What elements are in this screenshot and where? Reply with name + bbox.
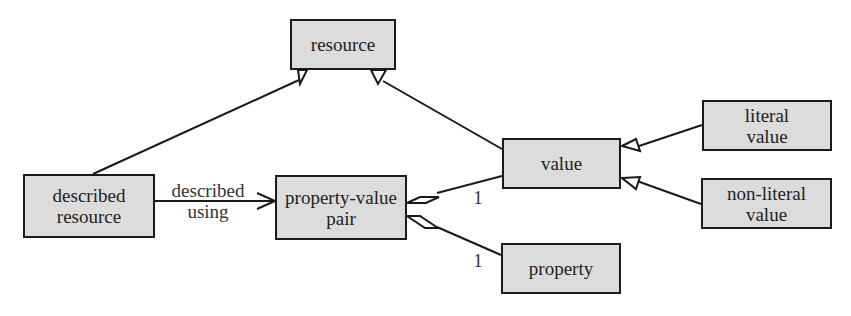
class-box-resource: resource (290, 19, 396, 70)
class-box-non-literal-value: non-literal value (701, 178, 832, 229)
class-label: property-value (285, 187, 397, 208)
class-label: resource (57, 206, 121, 227)
class-box-value: value (502, 138, 621, 189)
class-box-described-resource: described resource (23, 174, 155, 238)
class-label: value (541, 153, 582, 174)
class-label: value (746, 126, 787, 147)
generalization-line-literal (636, 125, 702, 147)
multiplicity-label-property: 1 (472, 250, 484, 271)
class-label: value (746, 204, 787, 225)
connector-layer (0, 0, 851, 316)
class-box-property: property (501, 243, 621, 294)
hollow-triangle-arrow-icon (622, 177, 640, 189)
hollow-diamond-icon (407, 216, 438, 228)
class-label: non-literal (727, 183, 806, 204)
class-label: pair (326, 208, 356, 229)
class-label: literal (745, 105, 789, 126)
class-box-property-value-pair: property-value pair (275, 175, 407, 240)
hollow-triangle-arrow-icon (622, 139, 640, 151)
class-label: resource (311, 34, 375, 55)
edge-label-line: described (165, 180, 251, 201)
aggregation-line-value (437, 176, 502, 193)
multiplicity-label-value: 1 (472, 187, 484, 208)
class-box-literal-value: literal value (702, 100, 832, 151)
class-label: property (529, 258, 593, 279)
generalization-line-non-literal (637, 181, 701, 204)
association-label-described-using: described using (165, 180, 251, 222)
edge-label-line: using (165, 201, 251, 222)
hollow-triangle-arrow-icon (298, 70, 307, 84)
class-label: described (53, 185, 126, 206)
uml-diagram: resource described resource property-val… (0, 0, 851, 316)
generalization-line-value (383, 81, 502, 149)
hollow-diamond-icon (407, 197, 439, 203)
generalization-line-described-resource (93, 80, 299, 174)
aggregation-line-property (437, 227, 501, 255)
